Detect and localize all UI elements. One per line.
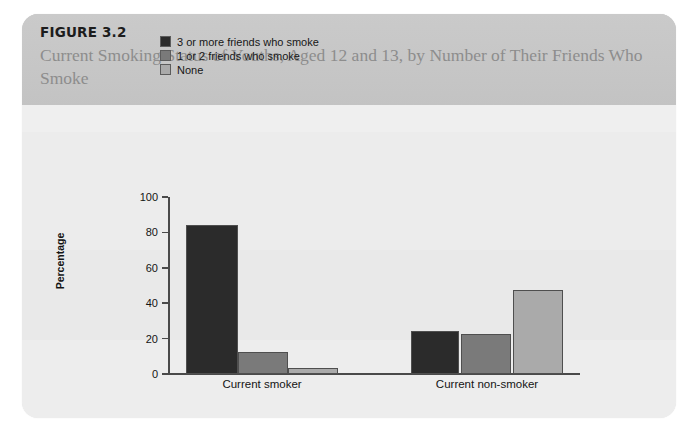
- bar: [513, 290, 563, 374]
- bar: [288, 368, 338, 374]
- x-axis-group-label: Current smoker: [182, 378, 342, 390]
- figure-page: FIGURE 3.2 Current Smoking Status of You…: [0, 0, 692, 430]
- bar: [238, 352, 288, 374]
- chart-bars: [22, 197, 676, 374]
- bar: [411, 331, 459, 374]
- chart-plot-area: 020406080100 Percentage Current smokerCu…: [22, 14, 676, 418]
- bar: [186, 225, 238, 374]
- bar: [461, 334, 511, 374]
- figure-card: FIGURE 3.2 Current Smoking Status of You…: [22, 14, 676, 418]
- x-axis-group-label: Current non-smoker: [407, 378, 567, 390]
